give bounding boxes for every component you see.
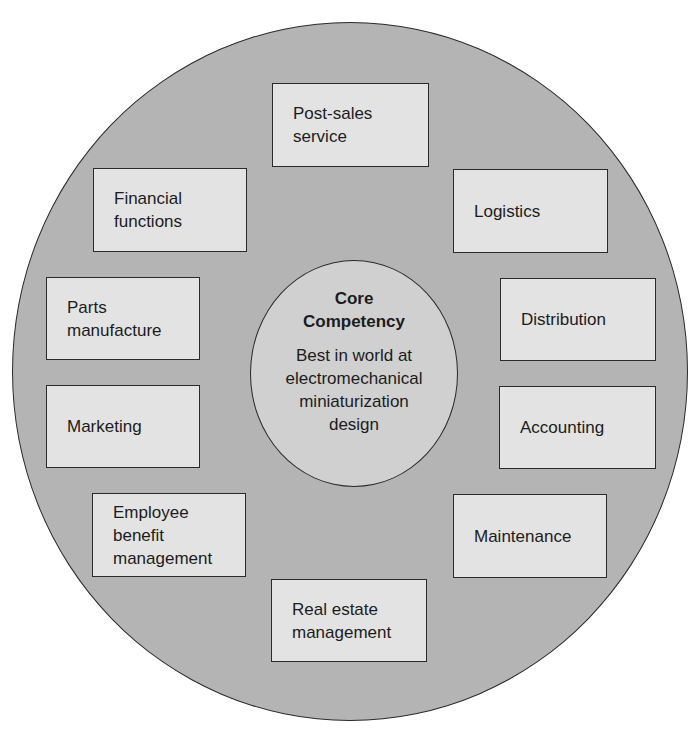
- core-desc-line: Best in world at: [251, 344, 457, 367]
- box-marketing: Marketing: [46, 385, 200, 468]
- box-label: Parts manufacture: [47, 296, 162, 342]
- box-accounting: Accounting: [499, 386, 656, 469]
- box-parts-manufacture: Parts manufacture: [46, 277, 200, 360]
- box-label: Marketing: [47, 415, 142, 438]
- core-desc-line: electromechanical: [251, 367, 457, 390]
- box-label: Accounting: [500, 416, 604, 439]
- core-title-line: Core: [251, 287, 457, 310]
- core-competency-circle: Core Competency Best in world at electro…: [250, 260, 458, 487]
- box-distribution: Distribution: [500, 278, 656, 361]
- box-financial-functions: Financial functions: [93, 168, 247, 252]
- box-label: Post-sales service: [273, 102, 372, 148]
- box-post-sales-service: Post-sales service: [272, 83, 429, 167]
- box-label: Employee benefit management: [93, 501, 212, 570]
- box-label: Financial functions: [94, 187, 182, 233]
- core-competency-description: Best in world at electromechanical minia…: [251, 344, 457, 436]
- box-maintenance: Maintenance: [453, 494, 607, 578]
- box-logistics: Logistics: [453, 169, 608, 253]
- box-label: Distribution: [501, 308, 606, 331]
- box-label: Real estate management: [272, 598, 391, 644]
- box-label: Maintenance: [454, 525, 571, 548]
- box-label: Logistics: [454, 200, 540, 223]
- core-desc-line: miniaturization: [251, 390, 457, 413]
- box-employee-benefit-management: Employee benefit management: [92, 493, 246, 577]
- core-competency-title: Core Competency: [251, 287, 457, 333]
- box-real-estate-management: Real estate management: [271, 579, 427, 662]
- core-desc-line: design: [251, 413, 457, 436]
- core-title-line: Competency: [251, 310, 457, 333]
